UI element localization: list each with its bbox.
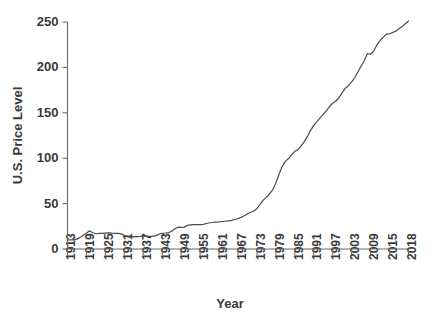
y-axis-tick-labels: 050100150200250	[37, 14, 59, 256]
x-tick-label: 1973	[254, 233, 268, 260]
x-tick-label: 1991	[310, 233, 324, 260]
x-tick-label: 1925	[102, 233, 116, 260]
x-axis-tick-labels: 1913191919251931193719431949195519611967…	[64, 233, 419, 260]
chart-svg: 050100150200250 191319191925193119371943…	[0, 0, 432, 322]
x-tick-label: 1937	[140, 233, 154, 260]
x-tick-label: 1979	[273, 233, 287, 260]
x-tick-label: 1955	[197, 233, 211, 260]
y-axis-ticks	[63, 22, 68, 249]
y-tick-label: 50	[44, 196, 58, 211]
price-level-chart: 050100150200250 191319191925193119371943…	[0, 0, 432, 322]
price-level-line	[68, 21, 409, 240]
x-tick-label: 1943	[159, 233, 173, 260]
x-tick-label: 1949	[178, 233, 192, 260]
x-tick-label: 1913	[64, 233, 78, 260]
y-tick-label: 150	[37, 105, 59, 120]
x-tick-label: 1985	[292, 233, 306, 260]
y-axis-title: U.S. Price Level	[10, 87, 25, 185]
x-tick-label: 2018	[405, 233, 419, 260]
x-tick-label: 2009	[367, 233, 381, 260]
y-tick-label: 0	[51, 241, 58, 256]
x-tick-label: 1997	[329, 233, 343, 260]
x-axis-title: Year	[216, 296, 243, 311]
y-tick-label: 200	[37, 59, 59, 74]
y-tick-label: 250	[37, 14, 59, 29]
y-tick-label: 100	[37, 150, 59, 165]
x-tick-label: 1967	[235, 233, 249, 260]
x-tick-label: 2003	[348, 233, 362, 260]
x-tick-label: 1919	[83, 233, 97, 260]
x-tick-label: 2015	[386, 233, 400, 260]
x-tick-label: 1961	[216, 233, 230, 260]
